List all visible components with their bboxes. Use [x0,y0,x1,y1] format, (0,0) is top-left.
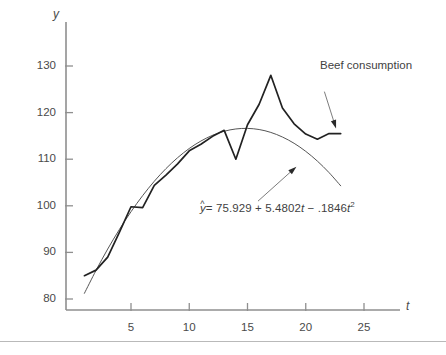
equation-leader [258,167,296,201]
hat-accent: ^ [200,200,205,209]
beef-consumption-leader [324,92,336,129]
x-axis-title: t [406,300,409,312]
page-divider-rule [0,341,446,342]
y-tick-label: 110 [22,153,56,165]
y-tick-label: 120 [22,107,56,119]
y-tick-label: 130 [22,60,56,72]
x-tick-label: 15 [235,322,261,334]
x-tick-label: 20 [293,322,319,334]
y-axis-title: y [53,8,59,20]
annotation-leaders [258,92,336,202]
equation-minus-term: − .1846 [304,202,347,214]
y-tick-label: 80 [22,293,56,305]
y-tick-label: 100 [22,200,56,212]
x-tick-label: 5 [118,322,144,334]
equation-exponent: 2 [350,200,355,209]
series-group [84,75,340,293]
chart-canvas [0,0,446,355]
y-tick-label: 90 [22,246,56,258]
equation-yhat-symbol: ^y [200,203,206,215]
x-tick-label: 25 [351,322,377,334]
x-tick-label: 10 [176,322,202,334]
series-beef-consumption [84,75,340,275]
beef-consumption-annotation-label: Beef consumption [320,60,412,72]
equation-main-text: = 75.929 + 5.4802 [206,202,301,214]
figure-container: y t 80 90 100 110 120 130 5 10 15 20 25 … [0,0,446,355]
regression-equation-label: ^y= 75.929 + 5.4802t − .1846t2 [200,203,355,215]
